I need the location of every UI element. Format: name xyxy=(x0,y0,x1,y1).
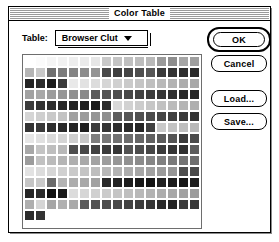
color-swatch[interactable] xyxy=(57,133,68,144)
color-swatch[interactable] xyxy=(101,111,112,122)
color-swatch[interactable] xyxy=(189,67,200,78)
color-swatch[interactable] xyxy=(123,111,134,122)
color-swatch[interactable] xyxy=(134,133,145,144)
color-swatch[interactable] xyxy=(68,100,79,111)
color-swatch[interactable] xyxy=(134,199,145,210)
color-swatch[interactable] xyxy=(24,122,35,133)
color-swatch[interactable] xyxy=(178,199,189,210)
color-swatch[interactable] xyxy=(101,100,112,111)
color-swatch[interactable] xyxy=(189,89,200,100)
color-swatch[interactable] xyxy=(134,78,145,89)
color-swatch[interactable] xyxy=(24,155,35,166)
color-swatch[interactable] xyxy=(145,155,156,166)
color-swatch[interactable] xyxy=(178,100,189,111)
color-swatch[interactable] xyxy=(79,67,90,78)
color-swatch[interactable] xyxy=(112,100,123,111)
color-swatch[interactable] xyxy=(24,166,35,177)
color-swatch[interactable] xyxy=(167,155,178,166)
color-swatch[interactable] xyxy=(101,144,112,155)
color-swatch[interactable] xyxy=(57,166,68,177)
color-swatch[interactable] xyxy=(134,100,145,111)
color-swatch[interactable] xyxy=(189,133,200,144)
color-swatch[interactable] xyxy=(79,133,90,144)
color-swatch[interactable] xyxy=(145,78,156,89)
color-swatch[interactable] xyxy=(178,166,189,177)
save-button[interactable]: Save... xyxy=(211,113,267,130)
color-swatch[interactable] xyxy=(112,166,123,177)
color-swatch[interactable] xyxy=(35,78,46,89)
color-swatch[interactable] xyxy=(189,56,200,67)
color-swatch[interactable] xyxy=(167,56,178,67)
color-swatch[interactable] xyxy=(79,111,90,122)
color-swatch[interactable] xyxy=(189,144,200,155)
color-swatch[interactable] xyxy=(123,67,134,78)
color-swatch[interactable] xyxy=(68,155,79,166)
color-swatch[interactable] xyxy=(189,111,200,122)
color-swatch[interactable] xyxy=(167,188,178,199)
load-button[interactable]: Load... xyxy=(211,90,267,107)
color-swatch[interactable] xyxy=(24,78,35,89)
color-swatch[interactable] xyxy=(57,177,68,188)
color-swatch[interactable] xyxy=(35,210,46,221)
color-swatch[interactable] xyxy=(68,78,79,89)
color-swatch[interactable] xyxy=(178,144,189,155)
color-swatch[interactable] xyxy=(35,67,46,78)
color-swatch[interactable] xyxy=(35,100,46,111)
color-swatch[interactable] xyxy=(156,89,167,100)
color-swatch[interactable] xyxy=(35,89,46,100)
color-swatch[interactable] xyxy=(79,89,90,100)
color-swatch[interactable] xyxy=(68,122,79,133)
color-swatch[interactable] xyxy=(46,166,57,177)
color-swatch[interactable] xyxy=(79,144,90,155)
color-swatch[interactable] xyxy=(167,111,178,122)
color-swatch[interactable] xyxy=(24,67,35,78)
color-swatch[interactable] xyxy=(46,188,57,199)
color-swatch[interactable] xyxy=(57,67,68,78)
color-swatch[interactable] xyxy=(145,166,156,177)
color-swatch[interactable] xyxy=(79,199,90,210)
color-swatch[interactable] xyxy=(90,199,101,210)
color-swatch[interactable] xyxy=(156,67,167,78)
color-swatch[interactable] xyxy=(46,89,57,100)
color-swatch[interactable] xyxy=(178,56,189,67)
color-swatch[interactable] xyxy=(90,100,101,111)
color-swatch[interactable] xyxy=(101,78,112,89)
color-swatch[interactable] xyxy=(79,155,90,166)
color-swatch[interactable] xyxy=(112,78,123,89)
color-swatch[interactable] xyxy=(68,188,79,199)
color-swatch[interactable] xyxy=(68,56,79,67)
color-swatch[interactable] xyxy=(46,133,57,144)
color-swatch[interactable] xyxy=(35,177,46,188)
color-swatch[interactable] xyxy=(134,111,145,122)
color-swatch[interactable] xyxy=(68,67,79,78)
color-swatch[interactable] xyxy=(123,166,134,177)
color-swatch[interactable] xyxy=(35,56,46,67)
cancel-button[interactable]: Cancel xyxy=(211,55,267,72)
color-swatch[interactable] xyxy=(112,67,123,78)
color-swatch[interactable] xyxy=(57,188,68,199)
color-swatch[interactable] xyxy=(101,133,112,144)
color-swatch[interactable] xyxy=(156,122,167,133)
color-swatch[interactable] xyxy=(167,177,178,188)
color-swatch[interactable] xyxy=(24,210,35,221)
color-swatch[interactable] xyxy=(101,188,112,199)
color-swatch[interactable] xyxy=(90,56,101,67)
color-swatch[interactable] xyxy=(24,56,35,67)
color-swatch[interactable] xyxy=(156,100,167,111)
color-swatch[interactable] xyxy=(57,56,68,67)
color-swatch[interactable] xyxy=(123,100,134,111)
color-swatch[interactable] xyxy=(35,133,46,144)
color-swatch[interactable] xyxy=(167,100,178,111)
color-swatch[interactable] xyxy=(112,89,123,100)
color-swatch[interactable] xyxy=(57,122,68,133)
color-swatch[interactable] xyxy=(167,144,178,155)
color-swatch[interactable] xyxy=(178,78,189,89)
color-swatch[interactable] xyxy=(112,133,123,144)
color-swatch[interactable] xyxy=(156,133,167,144)
color-swatch[interactable] xyxy=(167,89,178,100)
color-swatch[interactable] xyxy=(101,67,112,78)
color-swatch[interactable] xyxy=(123,188,134,199)
color-swatch[interactable] xyxy=(35,188,46,199)
color-swatch[interactable] xyxy=(24,89,35,100)
color-swatch[interactable] xyxy=(145,111,156,122)
